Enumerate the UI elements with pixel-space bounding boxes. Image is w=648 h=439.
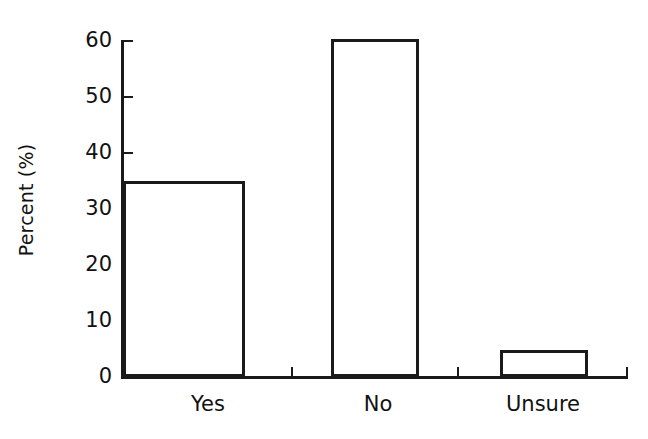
bar-yes bbox=[123, 181, 245, 377]
y-tick-label-0: 0 bbox=[52, 366, 112, 387]
y-tick-mark-60 bbox=[124, 40, 133, 42]
x-category-label-no: No bbox=[298, 392, 458, 416]
y-tick-label-10: 10 bbox=[52, 310, 112, 331]
y-tick-label-20: 20 bbox=[52, 254, 112, 275]
bar-no bbox=[331, 39, 419, 377]
y-tick-label-60: 60 bbox=[52, 30, 112, 51]
y-axis-title: Percent (%) bbox=[15, 100, 37, 300]
x-tick-mark-2 bbox=[457, 367, 459, 376]
x-tick-mark-1 bbox=[291, 367, 293, 376]
x-tick-mark-3 bbox=[626, 367, 628, 376]
x-category-label-unsure: Unsure bbox=[463, 392, 623, 416]
y-tick-mark-50 bbox=[124, 96, 133, 98]
y-tick-mark-40 bbox=[124, 152, 133, 154]
y-axis-tick-labels: 60 50 40 30 20 10 0 bbox=[52, 0, 112, 439]
bar-unsure bbox=[500, 350, 588, 377]
x-category-label-yes: Yes bbox=[128, 392, 288, 416]
bar-chart: Percent (%) 60 50 40 30 20 10 0 Yes No U… bbox=[0, 0, 648, 439]
y-tick-label-40: 40 bbox=[52, 142, 112, 163]
y-tick-label-50: 50 bbox=[52, 86, 112, 107]
y-tick-label-30: 30 bbox=[52, 198, 112, 219]
